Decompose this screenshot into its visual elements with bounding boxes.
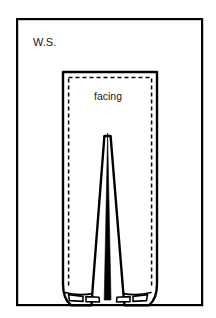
right-hem-cuff-b <box>133 295 148 302</box>
facing-label: facing <box>94 90 122 102</box>
illustration-canvas: W.S. facing <box>0 0 216 318</box>
wrong-side-label: W.S. <box>33 36 56 48</box>
pattern-illustration-figure: W.S. facing <box>0 0 216 318</box>
left-hem-cuff-b <box>86 297 100 302</box>
left-hem-cuff-a <box>69 295 84 302</box>
right-hem-cuff-a <box>117 297 131 302</box>
